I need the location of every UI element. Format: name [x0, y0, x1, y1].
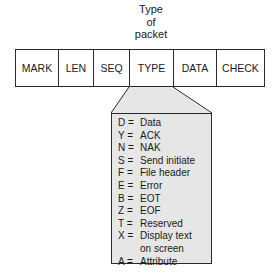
field-seq: SEQ	[94, 50, 130, 86]
legend-row: T =Reserved	[118, 218, 211, 231]
legend-desc: Reserved	[140, 218, 183, 231]
legend-key: T =	[118, 218, 140, 231]
legend-key: N =	[118, 142, 140, 155]
field-type: TYPE	[130, 50, 174, 86]
field-mark: MARK	[16, 50, 59, 86]
legend-key: Y =	[118, 130, 140, 143]
legend-row: F =File header	[118, 167, 211, 180]
legend-key: Z =	[118, 205, 140, 218]
legend-row: A =Attribute	[118, 256, 211, 269]
legend-key: A =	[118, 256, 140, 269]
packet-format: MARK LEN SEQ TYPE DATA CHECK	[15, 49, 265, 87]
legend-row: E =Error	[118, 180, 211, 193]
legend-desc: NAK	[140, 142, 161, 155]
legend-key: F =	[118, 167, 140, 180]
legend-row: S =Send initiate	[118, 155, 211, 168]
legend-desc: EOF	[140, 205, 161, 218]
legend-desc: File header	[140, 167, 190, 180]
type-code-legend: D =Data Y =ACK N =NAK S =Send initiate F…	[111, 113, 212, 264]
legend-key: S =	[118, 155, 140, 168]
field-check: CHECK	[217, 50, 264, 86]
legend-row: N =NAK	[118, 142, 211, 155]
legend-desc: Send initiate	[140, 155, 195, 168]
legend-row: Y =ACK	[118, 130, 211, 143]
legend-key: X =	[118, 230, 140, 243]
legend-desc: EOT	[140, 193, 161, 206]
legend-row: Z =EOF	[118, 205, 211, 218]
legend-desc: Error	[140, 180, 162, 193]
legend-desc: Display text	[140, 230, 192, 243]
legend-key: D =	[118, 117, 140, 130]
legend-key	[118, 243, 140, 256]
legend-key: E =	[118, 180, 140, 193]
legend-desc: Data	[140, 117, 161, 130]
legend-row: D =Data	[118, 117, 211, 130]
legend-desc: on screen	[140, 243, 184, 256]
legend-desc: Attribute	[140, 256, 177, 269]
legend-desc: ACK	[140, 130, 161, 143]
legend-row: B =EOT	[118, 193, 211, 206]
legend-row: on screen	[118, 243, 211, 256]
field-data: DATA	[174, 50, 217, 86]
field-len: LEN	[59, 50, 94, 86]
legend-key: B =	[118, 193, 140, 206]
legend-row: X =Display text	[118, 230, 211, 243]
